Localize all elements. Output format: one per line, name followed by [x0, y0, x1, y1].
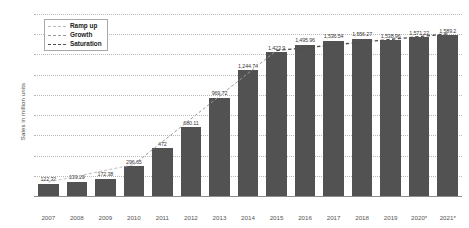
legend-label: Ramp up — [70, 22, 97, 30]
y-axis-title: Sales in million units — [19, 57, 26, 167]
bar-slot — [120, 14, 149, 196]
bar[interactable] — [323, 41, 344, 196]
bar-value-label: 680.11 — [168, 120, 214, 126]
bar[interactable] — [437, 35, 458, 196]
bar-slot — [234, 14, 263, 196]
bar-value-label: 1,244.74 — [225, 63, 271, 69]
bar[interactable] — [181, 127, 202, 196]
bar[interactable] — [67, 182, 88, 196]
legend-label: Growth — [70, 31, 92, 39]
bar-value-label: 172.38 — [82, 171, 128, 177]
chart-container: Sales in million units 02004006008001,00… — [0, 0, 469, 228]
bar[interactable] — [352, 39, 373, 196]
x-axis-tick-label: 2021* — [428, 214, 468, 221]
bar[interactable] — [38, 184, 59, 196]
bar[interactable] — [409, 37, 430, 196]
legend-label: Saturation — [70, 40, 102, 48]
bar[interactable] — [209, 98, 230, 196]
bar-slot — [433, 14, 462, 196]
legend-dash-icon — [48, 26, 66, 27]
bar[interactable] — [266, 52, 287, 196]
legend-item[interactable]: Saturation — [48, 40, 102, 48]
bar-slot — [205, 14, 234, 196]
bar-slot — [405, 14, 434, 196]
bar-slot — [177, 14, 206, 196]
bar[interactable] — [95, 179, 116, 196]
bar-value-label: 1,589.2 — [425, 28, 469, 34]
bar[interactable] — [295, 45, 316, 196]
bar-slot — [376, 14, 405, 196]
bar-value-label: 296.65 — [111, 159, 157, 165]
bar-value-label: 472 — [139, 141, 185, 147]
bar-value-label: 1,423.9 — [254, 45, 300, 51]
legend: Ramp upGrowthSaturation — [44, 19, 108, 51]
bar-slot — [348, 14, 377, 196]
legend-item[interactable]: Growth — [48, 31, 102, 39]
bar[interactable] — [152, 148, 173, 196]
bar[interactable] — [380, 40, 401, 196]
bar-value-label: 969.72 — [196, 90, 242, 96]
bar-slot — [148, 14, 177, 196]
legend-dash-icon — [48, 35, 66, 36]
x-axis-line — [34, 196, 462, 197]
legend-dash-icon — [48, 44, 66, 45]
legend-item[interactable]: Ramp up — [48, 22, 102, 30]
bar[interactable] — [238, 70, 259, 196]
